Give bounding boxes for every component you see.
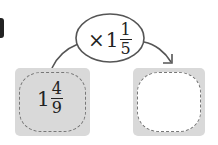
- input-fraction: 4 9: [51, 81, 63, 116]
- answer-blank[interactable]: [137, 72, 201, 132]
- operator-whole: 1: [106, 30, 119, 50]
- incoming-arc: [52, 44, 78, 68]
- input-numerator: 4: [52, 81, 62, 97]
- answer-box: [133, 68, 205, 136]
- operator-numerator: 1: [120, 22, 130, 38]
- operator-denominator: 5: [120, 41, 130, 57]
- input-denominator: 9: [52, 100, 62, 116]
- times-symbol: ×: [88, 30, 105, 50]
- input-whole: 1: [37, 89, 50, 109]
- input-value: 1 4 9: [37, 81, 63, 116]
- operator-fraction: 1 5: [120, 22, 132, 57]
- operator-label: × 1 1 5: [88, 22, 132, 57]
- outgoing-arc: [144, 42, 171, 62]
- input-box: 1 4 9: [15, 68, 90, 136]
- math-diagram: × 1 1 5 1 4 9: [0, 0, 218, 145]
